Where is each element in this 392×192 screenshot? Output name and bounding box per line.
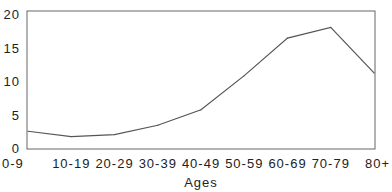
data-point [114,134,115,135]
x-tick-label: 0-9 [2,156,24,171]
y-tick-label: 10 [4,74,20,89]
data-point [244,75,245,76]
x-tick-label: 30-39 [139,156,177,171]
y-tick-label: 5 [12,108,20,123]
x-tick-label: 10-19 [52,156,90,171]
line-chart: 05101520 0-910-1920-2930-3940-4950-5960-… [0,0,392,192]
data-point [373,72,374,73]
series-line [28,27,374,136]
x-tick-label: 20-29 [95,156,133,171]
y-tick-label: 15 [4,41,20,56]
x-tick-label: 40-49 [182,156,220,171]
data-point [71,136,72,137]
y-tick-label: 0 [12,141,20,156]
data-point [330,27,331,28]
data-point [200,109,201,110]
x-tick-label: 50-59 [225,156,263,171]
plot-frame [27,11,375,149]
data-point [27,131,28,132]
data-point [157,125,158,126]
y-tick-label: 20 [4,7,20,22]
x-tick-label: 60-69 [268,156,306,171]
x-tick-label: 70-79 [312,156,350,171]
x-axis-title: Ages [184,175,218,190]
data-point [287,38,288,39]
x-tick-label: 80+ [365,156,390,171]
